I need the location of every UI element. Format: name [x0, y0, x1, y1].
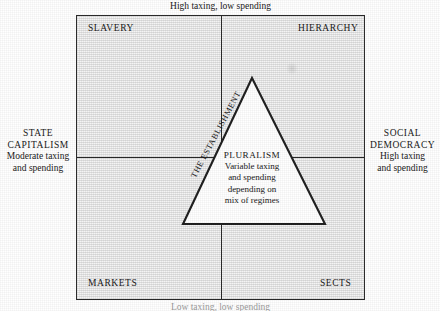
axis-left-sub-line-2: and spending [0, 163, 76, 175]
pluralism-title: PLURALISM [196, 150, 308, 161]
pluralism-line-2: and spending [196, 172, 308, 183]
axis-caption-left: STATE CAPITALISM Moderate taxing and spe… [0, 128, 76, 174]
axis-left-title-line-1: STATE [0, 128, 76, 140]
pluralism-line-4: mix of regimes [196, 195, 308, 206]
pluralism-line-1: Variable taxing [196, 161, 308, 172]
axis-right-sub-line-2: and spending [365, 163, 440, 175]
pluralism-line-3: depending on [196, 184, 308, 195]
axis-left-sub-line-1: Moderate taxing [0, 151, 76, 163]
quadrant-label-hierarchy: HIERARCHY [298, 23, 358, 33]
quadrant-label-slavery: SLAVERY [88, 23, 134, 33]
regime-typology-diagram: SLAVERY HIERARCHY MARKETS SECTS THE ESTA… [0, 0, 440, 311]
axis-left-title-line-2: CAPITALISM [0, 140, 76, 152]
quadrant-label-sects: SECTS [320, 278, 351, 288]
axis-caption-bottom: Low taxing, low spending [76, 302, 365, 311]
axis-right-sub-line-1: High taxing [365, 151, 440, 163]
quadrant-label-markets: MARKETS [88, 278, 137, 288]
pluralism-text-block: PLURALISM Variable taxing and spending d… [196, 150, 308, 206]
axis-right-title-line-1: SOCIAL [365, 128, 440, 140]
axis-caption-right: SOCIAL DEMOCRACY High taxing and spendin… [365, 128, 440, 174]
axis-caption-top: High taxing, low spending [76, 1, 365, 13]
axis-right-title-line-2: DEMOCRACY [365, 140, 440, 152]
